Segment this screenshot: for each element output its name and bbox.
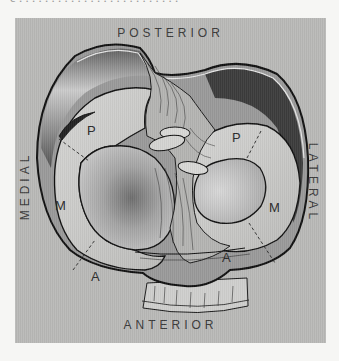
posterior-label: POSTERIOR (15, 26, 326, 40)
cropped-caption-text: e . . . . . . . . . . . . . . . . . . . … (0, 0, 339, 6)
tibial-plateau-illustration: P M A P M A (15, 18, 326, 343)
medial-anterior-label: A (91, 269, 100, 284)
lateral-middle-label: M (269, 200, 280, 215)
lateral-label: LATERAL (306, 143, 320, 223)
medial-label: MEDIAL (18, 152, 32, 221)
medial-middle-label: M (55, 198, 66, 213)
lateral-anterior-label: A (222, 250, 231, 265)
knee-meniscus-diagram: P M A P M A POSTERIOR ANTERIOR MEDIAL LA… (15, 18, 326, 343)
anterior-label: ANTERIOR (15, 318, 326, 332)
medial-posterior-label: P (87, 123, 96, 138)
lateral-posterior-label: P (232, 130, 241, 145)
